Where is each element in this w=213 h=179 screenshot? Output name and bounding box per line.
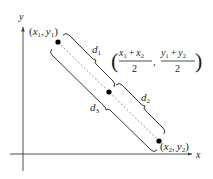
x-axis-label: x [195,149,201,160]
midpoint-open-paren: ( [111,48,118,73]
midpoint-y-numerator: y1+y2 [160,47,186,59]
midpoint-x-numerator: x1+x2 [118,47,144,59]
point-1-dot [55,39,60,44]
midpoint-dot [106,89,111,94]
point-1-label: (x1,y1) [29,25,58,39]
d3-label: d3 [90,101,100,115]
midpoint-comma: , [153,56,156,67]
midpoint-x-denominator: 2 [132,63,137,74]
point-2-label: (x2,y2) [160,140,189,154]
diagram-canvas: y x (x1,y1) d1 d2 d3 ( x1+x2 2 , [0,0,213,179]
midpoint-diagram: y x (x1,y1) d1 d2 d3 ( x1+x2 2 , [0,0,213,179]
d2-label: d2 [141,91,151,105]
midpoint-label: ( x1+x2 2 , y1+y2 2 ) [111,47,202,74]
midpoint-y-denominator: 2 [175,63,180,74]
midpoint-close-paren: ) [195,48,202,73]
y-axis-label: y [18,11,24,22]
d1-label: d1 [92,43,102,57]
d1-brace [63,34,115,88]
